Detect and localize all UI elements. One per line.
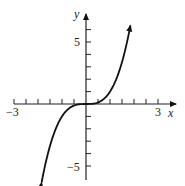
x-max-label: 3: [155, 105, 161, 119]
y-max-label: 5: [74, 35, 80, 49]
cubic-graph: −3 3 x y 5 −5: [0, 0, 185, 186]
y-axis-label: y: [73, 7, 80, 21]
x-axis-label: x: [167, 106, 174, 120]
y-ticks: [86, 30, 91, 166]
x-min-label: −3: [6, 105, 19, 119]
y-min-label: −5: [67, 160, 80, 174]
